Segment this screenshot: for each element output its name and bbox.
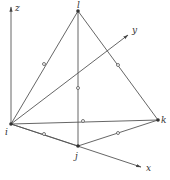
edge-li <box>11 11 78 124</box>
midpoint-node-lk <box>117 64 120 67</box>
vertex-j-label: j <box>73 151 78 161</box>
diagram-canvas: z y x l i j k <box>0 0 170 180</box>
vertex-i <box>9 122 13 126</box>
midpoint-node-jk <box>117 132 120 135</box>
vertex-j <box>76 144 80 148</box>
midpoint-node-ik <box>82 120 85 123</box>
midpoint-node-ij <box>43 133 46 136</box>
vertex-k <box>156 118 160 122</box>
y-axis-label: y <box>131 25 138 35</box>
midpoint-node-il <box>43 63 46 66</box>
midpoint-nodes <box>43 63 120 136</box>
vertex-i-label: i <box>5 127 8 137</box>
vertex-k-label: k <box>161 115 166 125</box>
vertex-l-label: l <box>77 0 80 10</box>
tetrahedron-diagram: z y x l i j k <box>0 0 170 180</box>
y-axis <box>11 35 128 124</box>
midpoint-node-lj <box>77 87 80 90</box>
x-axis-label: x <box>146 163 151 173</box>
z-axis-label: z <box>14 3 20 13</box>
